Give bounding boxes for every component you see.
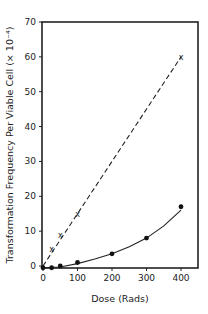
y-tick-label: 20 xyxy=(25,191,37,201)
x-marker: x xyxy=(179,53,184,62)
circle-marker xyxy=(179,204,184,209)
circle-marker xyxy=(58,264,63,269)
circle-marker xyxy=(49,265,54,270)
x-tick-label: 300 xyxy=(138,273,155,283)
x-tick-label: 100 xyxy=(69,273,86,283)
y-tick-label: 50 xyxy=(25,87,37,97)
circle-marker xyxy=(110,251,115,256)
y-axis-label: Transformation Frequency Per Viable Cell… xyxy=(4,27,15,265)
circle-marker xyxy=(144,236,149,241)
y-tick-label: 60 xyxy=(25,52,37,62)
chart-canvas: 0102030405060700100200300400 xxxx Dose (… xyxy=(0,0,208,314)
x-tick-label: 0 xyxy=(40,273,46,283)
x-marker: x xyxy=(49,245,54,254)
x-tick-label: 200 xyxy=(103,273,120,283)
y-tick-label: 30 xyxy=(25,156,37,166)
x-marker: x xyxy=(75,210,80,219)
y-tick-label: 40 xyxy=(25,122,37,132)
circle-marker xyxy=(41,265,46,270)
y-tick-label: 0 xyxy=(30,261,36,271)
data-series: xxxx xyxy=(41,53,184,270)
dashed-fit-line xyxy=(43,57,181,266)
x-marker: x xyxy=(58,231,63,240)
solid-fit-curve xyxy=(43,210,181,268)
y-tick-label: 70 xyxy=(25,17,37,27)
x-axis-label: Dose (Rads) xyxy=(91,293,149,304)
x-tick-label: 400 xyxy=(172,273,189,283)
axis-ticks: 0102030405060700100200300400 xyxy=(25,17,190,283)
circle-marker xyxy=(75,260,80,265)
y-tick-label: 10 xyxy=(25,226,37,236)
